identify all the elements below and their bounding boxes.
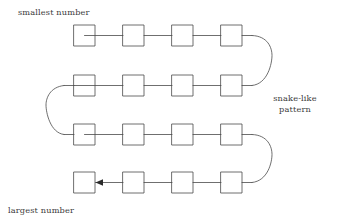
label-smallest-number: smallest number	[18, 7, 90, 18]
label-snake-line-1: snake-like	[264, 93, 326, 104]
arrow-head-icon	[96, 179, 104, 185]
cell-r1c2	[123, 25, 144, 46]
cell-r4c1	[74, 172, 95, 193]
cell-r1c3	[172, 25, 193, 46]
cell-r3c4	[221, 124, 242, 145]
label-snake-line-2: pattern	[264, 104, 326, 115]
label-largest-number: largest number	[8, 205, 74, 216]
cell-r4c3	[172, 172, 193, 193]
cell-r2c2	[123, 75, 144, 96]
snake-pattern-diagram: smallest number largest number snake-lik…	[0, 0, 337, 222]
cell-r1c4	[221, 25, 242, 46]
cell-r3c2	[123, 124, 144, 145]
uturn-right-top	[252, 36, 272, 86]
uturn-left-middle	[46, 86, 64, 135]
cell-r3c3	[172, 124, 193, 145]
cell-r2c3	[172, 75, 193, 96]
cell-r4c2	[123, 172, 144, 193]
label-snake-like-pattern: snake-like pattern	[264, 93, 326, 115]
uturn-right-bottom	[252, 135, 272, 183]
cell-r2c4	[221, 75, 242, 96]
cell-r4c4	[221, 172, 242, 193]
